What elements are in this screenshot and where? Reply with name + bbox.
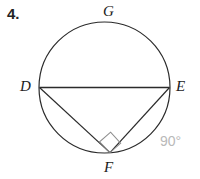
vertex-label-f: F bbox=[104, 160, 113, 175]
vertex-label-e: E bbox=[176, 79, 185, 94]
vertex-label-d: D bbox=[20, 79, 31, 94]
problem-number: 4. bbox=[7, 6, 19, 21]
segment-DF bbox=[40, 88, 111, 153]
angle-measure-label: 90° bbox=[160, 134, 181, 148]
vertex-label-g: G bbox=[103, 4, 114, 19]
right-angle-marker-icon bbox=[100, 132, 121, 152]
geometry-figure: 4. G D E F 90° bbox=[0, 0, 200, 179]
